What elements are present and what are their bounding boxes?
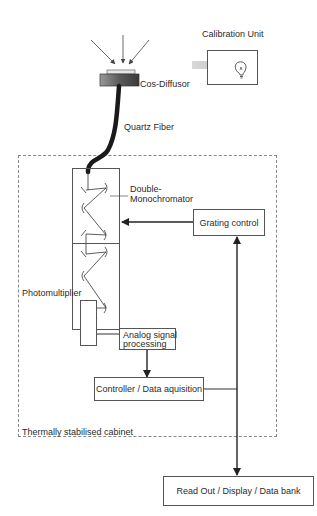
readout-box: Read Out / Display / Data bank [163, 476, 314, 506]
cos-diffusor-icon [100, 70, 139, 86]
diagram-graphics [0, 0, 317, 516]
quartz-fiber [88, 86, 119, 172]
photomultiplier-box [80, 300, 97, 346]
calibration-unit-label: Calibration Unit [202, 29, 264, 39]
light-bulb-icon [208, 51, 259, 86]
analog-signal-label-2: processing [123, 339, 167, 349]
cos-diffusor-label: Cos-Diffusor [140, 79, 190, 89]
quartz-fiber-label: Quartz Fiber [124, 122, 174, 132]
grating-control-label: Grating control [194, 218, 264, 228]
photomultiplier-label: Photomultiplier [22, 288, 82, 298]
readout-label: Read Out / Display / Data bank [164, 486, 313, 496]
diagram-canvas: Thermally stabilised cabinet [0, 0, 317, 516]
analog-signal-processing-box: Analog signal processing [119, 328, 176, 350]
calibration-unit-box [207, 50, 258, 85]
controller-label: Controller / Data aquisition [95, 384, 203, 394]
controller-box: Controller / Data aquisition [94, 377, 204, 401]
double-monochromator-label-2: Monochromator [130, 194, 193, 204]
monochromator-stage-1 [72, 168, 120, 244]
double-monochromator-label-1: Double- [130, 184, 162, 194]
grating-control-box: Grating control [193, 209, 265, 236]
incoming-light-arrows [91, 35, 149, 64]
